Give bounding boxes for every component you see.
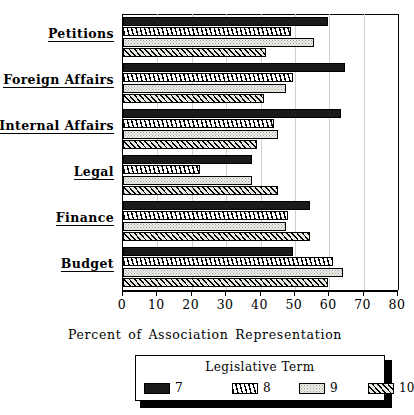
x-tick-label: 80 [389,297,406,312]
legend-item-term-9: 9 [299,381,338,395]
legend-item-term-10: 10 [368,381,414,395]
bar-internal-affairs-term-8 [123,119,274,128]
bar-finance-term-10 [123,232,310,241]
legend-swatch-solid-black [144,383,170,394]
bar-petitions-term-10 [123,48,266,57]
category-label-internal-affairs: Internal Affairs [0,119,114,134]
bar-finance-term-9 [123,222,286,231]
x-tick [328,291,329,296]
bar-petitions-term-8 [123,27,291,36]
x-tick-label: 30 [217,297,234,312]
legend-item-term-8: 8 [232,381,271,395]
x-tick [225,291,226,296]
x-tick [156,291,157,296]
bar-budget-term-9 [123,268,343,277]
gridline [295,14,296,290]
category-label-petitions: Petitions [48,27,114,42]
bar-foreign-affairs-term-8 [123,73,293,82]
category-label-legal: Legal [74,165,114,180]
category-axis-labels: PetitionsForeign AffairsInternal Affairs… [0,12,118,290]
gridline [364,14,365,290]
bar-internal-affairs-term-9 [123,130,278,139]
legend-title: Legislative Term [136,360,384,374]
x-tick [260,291,261,296]
x-tick-label: 20 [182,297,199,312]
x-tick [191,291,192,296]
legend-label: 10 [399,381,414,395]
bar-budget-term-7 [123,247,293,256]
legend-label: 9 [330,381,338,395]
bar-internal-affairs-term-10 [123,140,257,149]
legend-label: 7 [175,381,183,395]
x-tick-label: 40 [251,297,268,312]
x-axis-title: Percent of Association Representation [0,327,410,342]
x-tick-label: 10 [148,297,165,312]
bar-budget-term-10 [123,278,328,287]
bar-foreign-affairs-term-7 [123,63,345,72]
gridline [329,14,330,290]
bar-foreign-affairs-term-9 [123,84,286,93]
bar-legal-term-8 [123,165,200,174]
legend-box: Legislative Term 78910 [135,355,385,401]
bar-legal-term-10 [123,186,278,195]
legend-item-term-7: 7 [144,381,183,395]
legend-swatch-narrow-hatch [232,383,258,394]
category-label-budget: Budget [61,257,114,272]
category-label-foreign-affairs: Foreign Affairs [3,73,114,88]
x-tick [294,291,295,296]
legend-swatch-diagonal-hatch [368,383,394,394]
bar-petitions-term-9 [123,38,314,47]
x-tick-label: 0 [118,297,126,312]
bar-petitions-term-7 [123,17,328,26]
x-tick [122,291,123,296]
plot-area [122,14,399,290]
bar-internal-affairs-term-7 [123,109,341,118]
legend-swatch-light-dotted [299,383,325,394]
x-tick-label: 60 [320,297,337,312]
bar-foreign-affairs-term-10 [123,94,264,103]
bar-finance-term-8 [123,211,288,220]
x-tick-label: 70 [354,297,371,312]
bar-legal-term-7 [123,155,252,164]
bar-legal-term-9 [123,176,252,185]
x-tick [363,291,364,296]
legend-label: 8 [263,381,271,395]
x-tick-label: 50 [285,297,302,312]
bar-finance-term-7 [123,201,310,210]
bar-budget-term-8 [123,257,333,266]
category-label-finance: Finance [56,211,114,226]
x-tick [397,291,398,296]
